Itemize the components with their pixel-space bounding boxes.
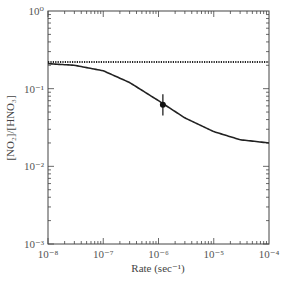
data-point bbox=[160, 102, 166, 108]
y-tick-label: 10⁰ bbox=[29, 5, 45, 17]
y-tick-label: 10⁻¹ bbox=[24, 83, 44, 95]
x-tick-label: 10⁻⁷ bbox=[93, 248, 114, 260]
tick-labels: 10⁻⁸10⁻⁷10⁻⁶10⁻⁵10⁻⁴10⁰10⁻¹10⁻²10⁻³ bbox=[24, 5, 280, 260]
model-curve bbox=[48, 64, 269, 143]
x-tick-label: 10⁻⁴ bbox=[259, 248, 280, 260]
y-axis-title: [NO₂]/[HNO₃] bbox=[4, 95, 16, 160]
axis-ticks bbox=[48, 11, 269, 244]
x-axis-title: Rate (sec⁻¹) bbox=[131, 262, 185, 275]
x-tick-label: 10⁻⁶ bbox=[148, 248, 169, 260]
chart: 10⁻⁸10⁻⁷10⁻⁶10⁻⁵10⁻⁴10⁰10⁻¹10⁻²10⁻³ Rate… bbox=[0, 0, 286, 282]
plot-frame bbox=[48, 11, 269, 244]
x-tick-label: 10⁻⁵ bbox=[203, 248, 224, 260]
y-tick-label: 10⁻³ bbox=[24, 238, 45, 250]
y-tick-label: 10⁻² bbox=[24, 160, 45, 172]
series-layer bbox=[48, 62, 269, 143]
